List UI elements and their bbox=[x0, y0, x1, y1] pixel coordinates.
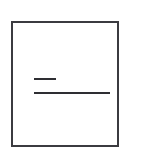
short-horizontal-line bbox=[34, 78, 56, 80]
rectangle-frame: Rectangular frame enclosing two horizont… bbox=[11, 21, 119, 147]
long-horizontal-line bbox=[34, 92, 110, 94]
figure-description: Rectangular frame enclosing two horizont… bbox=[13, 23, 14, 24]
drawing-canvas: Rectangular frame enclosing two horizont… bbox=[0, 0, 164, 153]
